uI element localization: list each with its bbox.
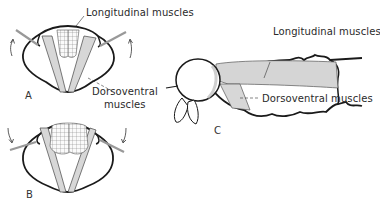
panel-label-a: A <box>25 91 32 101</box>
label-a-longitudinal-muscles: Longitudinal muscles <box>86 8 194 18</box>
panel-a-cross-section <box>11 16 133 92</box>
panel-b-cross-section <box>8 123 126 192</box>
label-ab-dorsoventral: Dorsoventral <box>92 87 158 97</box>
flight-muscle-diagram: Longitudinal muscles Dorsoventral muscle… <box>0 0 380 208</box>
panel-c-lateral-view <box>166 55 362 124</box>
label-ab-muscles: muscles <box>104 100 146 110</box>
panel-label-c: C <box>214 126 221 136</box>
label-c-dorsoventral-muscles: Dorsoventral muscles <box>262 94 373 104</box>
panel-label-b: B <box>26 190 33 200</box>
label-c-longitudinal-muscles: Longitudinal muscles <box>273 27 380 37</box>
